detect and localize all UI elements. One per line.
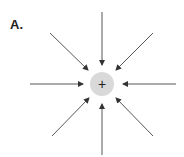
- arrow-bottom-left: [52, 98, 89, 136]
- charge-symbol: +: [98, 76, 106, 92]
- electric-field-diagram: +: [0, 0, 184, 157]
- arrow-top-right: [116, 33, 153, 70]
- arrow-top-left: [50, 33, 88, 70]
- arrow-bottom-right: [116, 98, 153, 136]
